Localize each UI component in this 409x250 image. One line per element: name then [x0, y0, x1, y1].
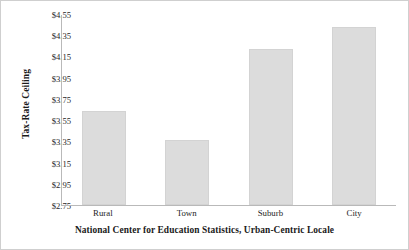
- bar-chart: Tax-Rate Ceiling $4.55$4.35$4.15$3.95$3.…: [0, 0, 409, 250]
- x-axis-tick-label: Rural: [61, 208, 145, 218]
- bar-rural: [82, 111, 126, 205]
- bar-slot: [229, 15, 313, 205]
- bar-city: [332, 27, 376, 205]
- bar-slot: [146, 15, 230, 205]
- bar-slot: [313, 15, 397, 205]
- x-axis-tick-label: Town: [145, 208, 229, 218]
- x-axis-tick-labels: RuralTownSuburbCity: [61, 208, 396, 218]
- x-axis-title: National Center for Education Statistics…: [1, 225, 408, 235]
- x-axis-tick-label: Suburb: [229, 208, 313, 218]
- plot-area: [61, 15, 396, 206]
- bar-series: [62, 15, 396, 205]
- bar-town: [165, 140, 209, 205]
- x-axis-tick-label: City: [312, 208, 396, 218]
- bar-slot: [62, 15, 146, 205]
- bar-suburb: [249, 49, 293, 205]
